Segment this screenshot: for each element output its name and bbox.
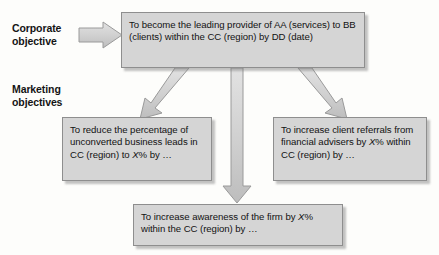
corporate-objective-label-line1: Corporate — [12, 22, 61, 35]
marketing-objectives-label: Marketing objectives — [12, 83, 62, 108]
arrow-corporate-to-awareness-icon — [223, 68, 251, 203]
marketing-objective-reduce-text: To reduce the percentage of unconverted … — [63, 118, 211, 166]
marketing-objectives-label-line2: objectives — [12, 96, 62, 109]
marketing-objective-referrals-box: To increase client referrals from financ… — [273, 117, 427, 181]
corporate-objective-label-line2: objective — [12, 35, 61, 48]
objectives-diagram: Corporate objective Marketing objectives… — [0, 0, 439, 255]
arrow-corporate-to-referrals-icon — [298, 68, 347, 119]
marketing-objective-reduce-text-part2: % by … — [139, 149, 172, 160]
marketing-objective-awareness-text-part1: To increase awareness of the firm by — [141, 211, 298, 222]
corporate-objective-box: To become the leading provider of AA (se… — [121, 12, 365, 68]
corporate-objective-label: Corporate objective — [12, 22, 61, 47]
marketing-objectives-label-line1: Marketing — [12, 83, 62, 96]
arrow-corporate-label-to-box-icon — [79, 22, 122, 48]
marketing-objective-referrals-text: To increase client referrals from financ… — [274, 118, 426, 166]
marketing-objective-awareness-box: To increase awareness of the firm by X% … — [133, 204, 343, 246]
corporate-objective-text: To become the leading provider of AA (se… — [122, 13, 364, 49]
arrow-corporate-to-reduce-icon — [140, 68, 189, 119]
marketing-objective-reduce-box: To reduce the percentage of unconverted … — [62, 117, 212, 181]
marketing-objective-awareness-text: To increase awareness of the firm by X% … — [134, 205, 342, 241]
